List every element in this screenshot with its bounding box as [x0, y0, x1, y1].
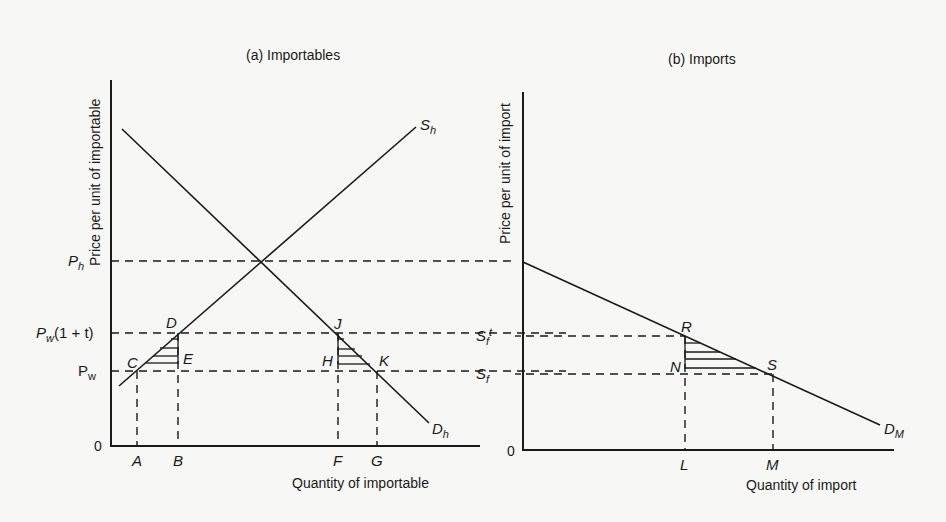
panel-b-y-axis-label: Price per unit of import [497, 103, 513, 244]
pwt-label: Pw(1 + t) [36, 324, 94, 344]
panel-a-title: (a) Importables [246, 47, 340, 63]
panel-b-x-axis-label: Quantity of import [746, 477, 857, 493]
x-label-f: F [333, 452, 343, 469]
panel-a-axes [111, 80, 480, 446]
panel-b-title: (b) Imports [668, 51, 736, 67]
dm-label: DM [884, 420, 905, 440]
x-label-m: M [766, 456, 779, 473]
point-s-label: S [767, 356, 777, 373]
panel-a-origin: 0 [94, 438, 102, 454]
point-h-label: H [322, 352, 333, 369]
supply-curve-sh [119, 127, 416, 386]
x-label-b: B [173, 452, 183, 469]
panel-a-y-axis-label: Price per unit of importable [87, 98, 103, 266]
panel-importables: (a) Importables Price per unit of import… [36, 47, 566, 491]
x-label-l: L [680, 456, 688, 473]
point-e-label: E [183, 350, 194, 367]
sf-label: Sf [476, 365, 490, 385]
point-j-label: J [333, 315, 342, 332]
point-d-label: D [166, 314, 177, 331]
import-demand-curve-dm [523, 262, 880, 425]
dh-label: Dh [432, 420, 449, 440]
x-label-g: G [371, 452, 383, 469]
sft-label: Sft [476, 326, 493, 347]
point-r-label: R [681, 318, 692, 335]
point-k-label: K [379, 352, 390, 369]
pw-label: Pw [78, 362, 96, 382]
ph-label: Ph [68, 252, 84, 272]
point-c-label: C [127, 354, 138, 371]
panel-a-x-axis-label: Quantity of importable [292, 475, 429, 491]
demand-curve-dh [122, 129, 429, 423]
point-n-label: N [670, 358, 681, 375]
panel-imports: (b) Imports Price per unit of import 0 S… [476, 51, 905, 493]
panel-b-axes [523, 92, 894, 450]
tariff-diagram: (a) Importables Price per unit of import… [0, 0, 946, 522]
panel-b-origin: 0 [507, 443, 515, 459]
sh-label: Sh [420, 116, 436, 136]
x-label-a: A [131, 452, 142, 469]
hatched-triangle-hjk [338, 334, 370, 364]
